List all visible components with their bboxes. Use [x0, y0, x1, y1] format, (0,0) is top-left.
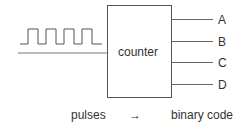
caption-arrow-icon: →	[129, 109, 141, 121]
output-label-a: A	[218, 14, 226, 26]
output-label-d: D	[218, 79, 227, 91]
output-label-c: C	[218, 57, 227, 69]
caption-pulses: pulses	[71, 109, 106, 121]
counter-label: counter	[118, 46, 158, 58]
output-label-b: B	[218, 36, 226, 48]
caption-binary-code: binary code	[171, 109, 233, 121]
pulse-waveform	[20, 29, 102, 44]
